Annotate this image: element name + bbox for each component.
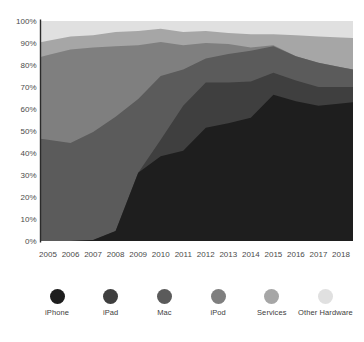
- y-axis-label: 30%: [20, 171, 36, 180]
- x-axis-label: 2018: [332, 250, 350, 259]
- legend-swatch-ipad: [103, 289, 118, 304]
- legend-swatch-services: [264, 289, 279, 304]
- x-axis-label: 2013: [219, 250, 237, 259]
- x-axis-label: 2010: [152, 250, 170, 259]
- legend-swatch-iphone: [50, 289, 65, 304]
- x-axis-label: 2011: [175, 250, 193, 259]
- y-axis-label: 80%: [20, 61, 36, 70]
- legend-label-ipad: iPad: [81, 308, 141, 318]
- x-axis-label: 2017: [310, 250, 328, 259]
- legend-swatch-ipod: [211, 289, 226, 304]
- x-axis-label: 2008: [107, 250, 125, 259]
- legend-swatch-mac: [157, 289, 172, 304]
- legend-label-iphone: iPhone: [27, 308, 87, 318]
- x-axis-label: 2005: [39, 250, 57, 259]
- y-axis-label: 0%: [25, 237, 37, 246]
- stacked-area-chart: 0%10%20%30%40%50%60%70%80%90%100% 200520…: [0, 0, 364, 270]
- chart-legend: iPhoneiPadMaciPodServicesOther Hardware: [0, 289, 364, 339]
- y-axis-label: 60%: [20, 105, 36, 114]
- x-axis-label: 2014: [242, 250, 260, 259]
- y-axis-label: 70%: [20, 83, 36, 92]
- legend-label-services: Services: [242, 308, 302, 318]
- legend-item-ipad: iPad: [81, 289, 141, 318]
- legend-label-mac: Mac: [134, 308, 194, 318]
- legend-label-other-hardware: Other Hardware: [296, 308, 356, 318]
- y-axis-label: 40%: [20, 149, 36, 158]
- x-axis: 2005200620072008200920102011201220132014…: [39, 250, 350, 259]
- legend-item-ipod: iPod: [188, 289, 248, 318]
- y-axis-label: 100%: [16, 17, 36, 26]
- legend-swatch-other-hardware: [318, 289, 333, 304]
- x-axis-label: 2006: [62, 250, 80, 259]
- x-axis-label: 2007: [84, 250, 102, 259]
- y-axis-label: 20%: [20, 193, 36, 202]
- y-axis-label: 50%: [20, 127, 36, 136]
- legend-item-other-hardware: Other Hardware: [296, 289, 356, 318]
- y-axis-label: 10%: [20, 215, 36, 224]
- x-axis-label: 2016: [287, 250, 305, 259]
- apple-revenue-share-chart: 0%10%20%30%40%50%60%70%80%90%100% 200520…: [0, 0, 364, 342]
- legend-label-ipod: iPod: [188, 308, 248, 318]
- legend-item-services: Services: [242, 289, 302, 318]
- y-axis: 0%10%20%30%40%50%60%70%80%90%100%: [16, 17, 40, 246]
- legend-item-iphone: iPhone: [27, 289, 87, 318]
- x-axis-label: 2009: [129, 250, 147, 259]
- chart-areas: [41, 21, 354, 241]
- y-axis-label: 90%: [20, 39, 36, 48]
- x-axis-label: 2015: [264, 250, 282, 259]
- x-axis-label: 2012: [197, 250, 215, 259]
- legend-item-mac: Mac: [134, 289, 194, 318]
